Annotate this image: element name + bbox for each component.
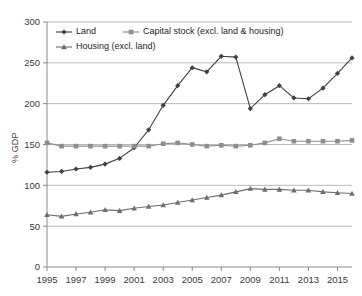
- series-3: [44, 186, 355, 219]
- data-point-marker: [161, 141, 166, 146]
- y-axis-ticks: 050100150200250300: [24, 16, 47, 272]
- legend-label: Capital stock (excl. land & housing): [143, 26, 284, 36]
- y-tick-label: 250: [24, 57, 40, 68]
- data-point-marker: [73, 166, 78, 171]
- y-tick-label: 150: [24, 139, 40, 150]
- y-tick-label: 300: [24, 16, 40, 27]
- data-point-marker: [88, 165, 93, 170]
- data-point-marker: [292, 139, 297, 144]
- data-point-marker: [277, 136, 282, 141]
- data-point-marker: [88, 144, 93, 149]
- line-chart-plot: 050100150200250300 199519971999200120032…: [0, 0, 362, 296]
- series-line: [47, 56, 352, 172]
- data-point-marker: [350, 138, 355, 143]
- data-point-marker: [103, 144, 108, 149]
- x-tick-label: 2013: [298, 274, 319, 285]
- legend-marker-icon: [61, 29, 66, 34]
- data-point-marker: [117, 144, 122, 149]
- legend-label: Housing (excl. land): [76, 41, 156, 51]
- series-2: [45, 136, 355, 148]
- series-line: [47, 189, 352, 217]
- data-point-marker: [335, 139, 340, 144]
- x-tick-label: 2007: [211, 274, 232, 285]
- data-point-marker: [175, 141, 180, 146]
- data-series: [44, 54, 355, 219]
- x-tick-label: 2001: [124, 274, 145, 285]
- x-tick-label: 1999: [95, 274, 116, 285]
- data-point-marker: [219, 143, 224, 148]
- legend-item-3[interactable]: Housing (excl. land): [56, 41, 156, 51]
- data-point-marker: [146, 144, 151, 149]
- data-point-marker: [248, 143, 253, 148]
- data-point-marker: [132, 144, 137, 149]
- data-point-marker: [59, 144, 64, 149]
- x-tick-label: 2009: [240, 274, 261, 285]
- data-point-marker: [263, 141, 268, 146]
- legend-marker-icon: [129, 30, 134, 35]
- data-point-marker: [74, 144, 79, 149]
- legend-item-2[interactable]: Capital stock (excl. land & housing): [123, 26, 284, 36]
- data-point-marker: [45, 141, 50, 146]
- data-point-marker: [190, 142, 195, 147]
- x-tick-label: 1995: [36, 274, 57, 285]
- legend-item-1[interactable]: Land: [56, 26, 96, 36]
- chart-container: % GDP 050100150200250300 199519971999200…: [0, 0, 362, 296]
- y-tick-label: 200: [24, 98, 40, 109]
- x-tick-label: 1997: [65, 274, 86, 285]
- legend-label: Land: [76, 26, 96, 36]
- y-tick-label: 50: [29, 221, 40, 232]
- chart-legend: LandCapital stock (excl. land & housing)…: [56, 26, 284, 51]
- data-point-marker: [204, 144, 209, 149]
- series-1: [44, 54, 354, 175]
- x-axis-ticks: 1995199719992001200320052007200920112013…: [36, 267, 348, 285]
- data-point-marker: [306, 139, 311, 144]
- x-tick-label: 2003: [153, 274, 174, 285]
- data-point-marker: [59, 169, 64, 174]
- x-tick-label: 2005: [182, 274, 203, 285]
- data-point-marker: [102, 162, 107, 167]
- y-tick-label: 0: [35, 261, 40, 272]
- data-point-marker: [233, 55, 238, 60]
- x-tick-label: 2011: [269, 274, 289, 285]
- data-point-marker: [321, 139, 326, 144]
- y-tick-label: 100: [24, 180, 40, 191]
- data-point-marker: [234, 144, 239, 149]
- x-tick-label: 2015: [327, 274, 348, 285]
- data-point-marker: [44, 170, 49, 175]
- gridlines: [47, 22, 352, 226]
